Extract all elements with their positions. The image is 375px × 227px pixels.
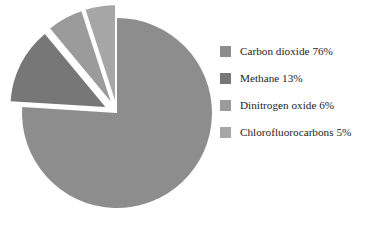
pie-chart-figure: Carbon dioxide 76% Methane 13% Dinitroge…	[0, 0, 375, 227]
legend-item-dinitrogen-oxide: Dinitrogen oxide 6%	[220, 98, 334, 112]
pie-svg	[0, 0, 225, 227]
chart-legend: Carbon dioxide 76% Methane 13% Dinitroge…	[220, 44, 375, 148]
pie-slice-group	[11, 5, 212, 208]
legend-item-methane: Methane 13%	[220, 71, 303, 85]
legend-item-chlorofluorocarbons: Chlorofluorocarbons 5%	[220, 125, 351, 139]
legend-swatch-carbon-dioxide	[220, 46, 231, 57]
pie-chart-plot-area	[0, 0, 225, 227]
legend-label-carbon-dioxide: Carbon dioxide 76%	[240, 44, 333, 58]
legend-swatch-dinitrogen-oxide	[220, 100, 231, 111]
legend-swatch-methane	[220, 73, 231, 84]
legend-label-chlorofluorocarbons: Chlorofluorocarbons 5%	[240, 125, 351, 139]
legend-label-methane: Methane 13%	[240, 71, 303, 85]
legend-item-carbon-dioxide: Carbon dioxide 76%	[220, 44, 333, 58]
legend-label-dinitrogen-oxide: Dinitrogen oxide 6%	[240, 98, 334, 112]
legend-swatch-chlorofluorocarbons	[220, 127, 231, 138]
